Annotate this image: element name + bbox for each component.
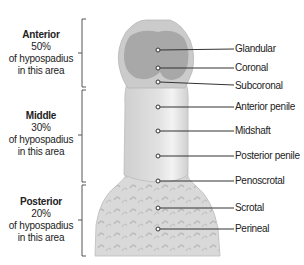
region-middle-title: Middle (1, 110, 81, 122)
region-middle-line2: in this area (1, 146, 81, 158)
label-anterior-penile: Anterior penile (235, 101, 295, 113)
scrotum-shape (95, 172, 220, 256)
label-posterior-penile: Posterior penile (235, 150, 300, 162)
marker-posterior-penile (156, 154, 160, 158)
region-posterior-line1: of hypospadius (1, 220, 81, 232)
region-anterior: Anterior 50% of hypospadius in this area (1, 29, 81, 77)
label-perineal: Perineal (235, 223, 269, 235)
marker-penoscrotal (156, 179, 160, 183)
region-middle-line1: of hypospadius (1, 134, 81, 146)
label-scrotal: Scrotal (235, 202, 264, 214)
marker-anterior-penile (156, 105, 160, 109)
region-anterior-title: Anterior (1, 29, 81, 41)
glans-inner-shape (124, 31, 189, 80)
region-anterior-line2: in this area (1, 65, 81, 77)
hypospadias-diagram: Anterior 50% of hypospadius in this area… (0, 0, 304, 265)
bracket-posterior (82, 185, 86, 256)
marker-subcoronal (156, 80, 160, 84)
label-glandular: Glandular (235, 43, 276, 55)
label-coronal: Coronal (235, 62, 268, 74)
marker-glandular (156, 48, 160, 52)
region-posterior: Posterior 20% of hypospadius in this are… (1, 196, 81, 244)
region-posterior-title: Posterior (1, 196, 81, 208)
label-midshaft: Midshaft (235, 125, 270, 137)
label-subcoronal: Subcoronal (235, 80, 283, 92)
bracket-anterior (82, 19, 86, 87)
marker-perineal (156, 227, 160, 231)
marker-scrotal (156, 206, 160, 210)
region-middle: Middle 30% of hypospadius in this area (1, 110, 81, 158)
region-posterior-line2: in this area (1, 232, 81, 244)
region-anterior-line1: of hypospadius (1, 53, 81, 65)
marker-midshaft (156, 129, 160, 133)
marker-coronal (156, 66, 160, 70)
region-middle-percent: 30% (1, 122, 81, 134)
label-penoscrotal: Penoscrotal (235, 175, 285, 187)
region-posterior-percent: 20% (1, 208, 81, 220)
bracket-middle (82, 90, 86, 182)
region-anterior-percent: 50% (1, 41, 81, 53)
